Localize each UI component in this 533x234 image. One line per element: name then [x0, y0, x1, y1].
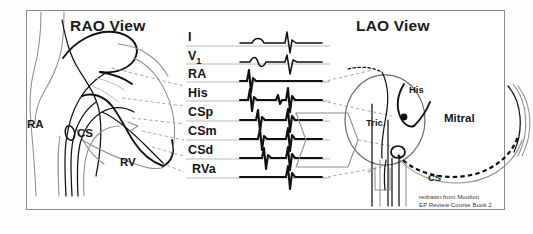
channel-label-V1: V1	[188, 49, 201, 66]
lao-label-cs: CS	[428, 172, 441, 183]
channel-label-CSm-text: CSm	[188, 124, 217, 138]
rao-view-title: RAO View	[70, 17, 145, 35]
channel-label-RA: RA	[188, 67, 206, 81]
rao-label-cs: CS	[77, 127, 93, 139]
channel-label-I: I	[188, 30, 192, 44]
ep-catheter-diagram: .s1{fill:none;stroke:#111;stroke-width:1…	[0, 0, 533, 234]
channel-label-I-text: I	[188, 30, 192, 44]
lao-label-his: His	[409, 84, 424, 95]
credit-line-2: EP Review Course Book 2	[419, 201, 492, 210]
channel-label-CSp-text: CSp	[188, 105, 213, 119]
lao-view-title: LAO View	[356, 17, 430, 35]
channel-label-RVa: RVa	[192, 162, 216, 176]
rao-label-ra: RA	[27, 118, 44, 130]
channel-label-CSm: CSm	[188, 124, 217, 138]
channel-label-RVa-text: RVa	[192, 162, 216, 176]
rao-label-rv: RV	[120, 156, 136, 168]
lao-label-tric: Tric.	[366, 117, 386, 128]
channel-label-CSp: CSp	[188, 105, 213, 119]
channel-label-His-text: His	[188, 86, 208, 100]
channel-label-His: His	[188, 86, 208, 100]
channel-label-CSd-text: CSd	[188, 143, 213, 157]
channel-label-V1-sub: 1	[196, 56, 201, 66]
lao-label-mitral: Mitral	[444, 112, 475, 124]
channel-label-CSd: CSd	[188, 143, 213, 157]
channel-label-RA-text: RA	[188, 67, 206, 81]
